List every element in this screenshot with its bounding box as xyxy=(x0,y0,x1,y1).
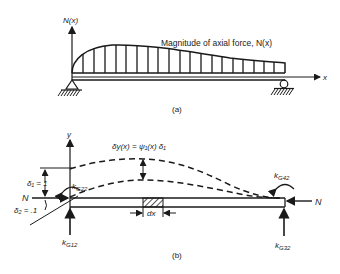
force-n-right-label: N xyxy=(315,197,322,207)
axial-force-curve xyxy=(72,45,285,73)
figure-b: y dx δy(x) = ψ₁(x) δ₁ δ₁ = 1 δ₂ = .1 N xyxy=(14,130,322,260)
caption-a: (a) xyxy=(172,105,182,114)
y-axis-label: y xyxy=(66,130,72,139)
dx-label: dx xyxy=(147,209,156,218)
k12-label: kG12 xyxy=(62,238,78,248)
dx-element xyxy=(143,198,163,207)
moment-k42-icon xyxy=(276,185,294,190)
axial-force-annotation: Magnitude of axial force, N(x) xyxy=(161,38,272,48)
k22-label: kG22 xyxy=(72,182,88,192)
caption-b: (b) xyxy=(172,251,182,260)
figure-a: N(x) x xyxy=(58,16,328,114)
diagram-canvas: N(x) x xyxy=(0,0,340,274)
deflection-label: δy(x) = ψ₁(x) δ₁ xyxy=(112,142,166,151)
delta2-label: δ₂ = .1 xyxy=(14,206,37,215)
k32-label: kG32 xyxy=(275,241,291,251)
k42-label: kG42 xyxy=(274,171,290,181)
delta1-label: δ₁ = 1 xyxy=(27,179,48,188)
roller-support-icon xyxy=(271,80,294,95)
n-axis-label: N(x) xyxy=(63,16,78,25)
x-axis-label: x xyxy=(322,73,328,82)
pin-support-icon xyxy=(58,80,82,96)
deflected-shape-lower xyxy=(70,180,280,198)
deflected-shape-upper xyxy=(70,159,280,198)
force-n-left-label: N xyxy=(22,193,29,203)
